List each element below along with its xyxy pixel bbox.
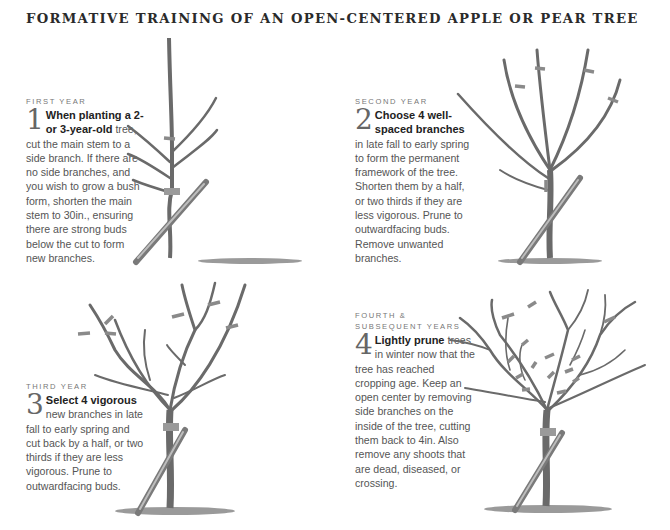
step-number: 1 (26, 107, 44, 133)
step-lead: Lightly prune (375, 334, 445, 346)
cut-mark (535, 68, 545, 69)
branch (458, 94, 548, 178)
cut-mark (557, 391, 566, 393)
cut-mark (522, 389, 530, 390)
cut-mark (502, 314, 514, 318)
ground (115, 507, 235, 515)
second-year-tree-illustration (440, 30, 670, 270)
cut-mark (508, 356, 514, 362)
step-number: 4 (355, 332, 373, 358)
branch (552, 80, 620, 170)
cut-mark (522, 340, 528, 345)
cut-mark (164, 138, 175, 139)
cut-mark (584, 70, 594, 72)
branch (167, 345, 185, 365)
first-year-tree-illustration (100, 30, 320, 270)
cut-mark (172, 314, 184, 317)
cut-mark (572, 356, 580, 360)
cut-mark (528, 302, 536, 307)
tree-tie (164, 188, 180, 195)
branch (144, 330, 150, 380)
cut-mark (565, 369, 573, 372)
stake-highlight (140, 432, 183, 509)
cut-mark (516, 374, 523, 378)
branch (568, 290, 588, 330)
ground (198, 258, 302, 264)
cut-mark (604, 317, 615, 322)
stake-highlight (517, 435, 560, 506)
branch (195, 283, 215, 330)
branch (550, 50, 588, 170)
cut-mark (226, 325, 238, 328)
cut-mark (548, 372, 554, 378)
trunk (549, 170, 550, 258)
cut-mark (545, 354, 554, 358)
step-number: 2 (355, 107, 373, 133)
branch (172, 130, 217, 168)
branch (549, 365, 645, 408)
cut-mark (105, 333, 116, 334)
step-number: 3 (26, 392, 44, 418)
branch (90, 305, 170, 410)
tree-tie (163, 423, 179, 431)
branch (95, 375, 168, 395)
mature-tree-illustration (450, 290, 670, 530)
cut-mark (532, 362, 536, 368)
branch (172, 98, 216, 152)
cut-mark (78, 333, 90, 334)
cut-mark (105, 316, 113, 324)
ground (498, 258, 602, 264)
page-title: FORMATIVE TRAINING OF AN OPEN-CENTERED A… (26, 11, 639, 26)
tree-tie (540, 428, 556, 436)
cut-mark (515, 86, 525, 87)
third-year-tree-illustration (60, 280, 300, 530)
ground (484, 505, 612, 513)
cut-mark (608, 98, 618, 102)
cut-mark (573, 378, 579, 382)
